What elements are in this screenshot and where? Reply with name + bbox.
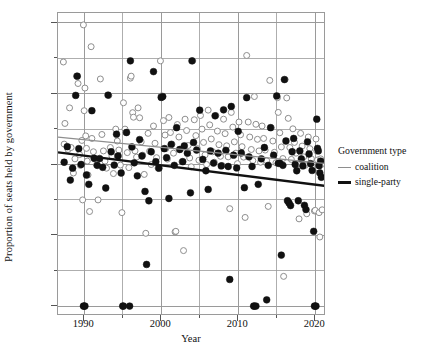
y-tick-mark-minor <box>54 128 57 129</box>
data-point <box>245 119 251 125</box>
data-point <box>190 139 197 146</box>
plot-canvas <box>58 13 325 315</box>
data-point <box>265 203 271 209</box>
data-point <box>128 73 134 79</box>
data-point <box>105 92 112 99</box>
data-point <box>205 186 212 193</box>
data-point <box>201 139 207 145</box>
data-point <box>218 163 225 170</box>
data-point <box>292 161 299 168</box>
data-point <box>313 116 320 123</box>
data-point <box>126 303 133 310</box>
data-point <box>120 100 126 106</box>
data-point <box>253 121 259 127</box>
data-point <box>189 57 196 64</box>
data-point <box>300 163 307 170</box>
data-point <box>181 248 187 254</box>
data-point <box>207 148 214 155</box>
data-point <box>80 22 86 28</box>
data-point <box>139 153 146 160</box>
data-point <box>235 128 242 135</box>
data-point <box>304 138 311 145</box>
data-point <box>261 144 268 151</box>
data-point <box>313 136 319 142</box>
data-point <box>95 197 101 203</box>
data-point <box>88 107 95 114</box>
data-point <box>267 124 274 131</box>
data-point <box>184 150 191 157</box>
data-point <box>247 134 253 140</box>
data-point <box>277 130 283 136</box>
data-point <box>270 152 277 159</box>
data-point <box>248 146 254 152</box>
data-point <box>254 136 260 142</box>
data-point <box>173 228 179 234</box>
y-tick-mark-minor <box>54 270 57 271</box>
data-point <box>242 214 248 220</box>
data-point <box>137 115 143 121</box>
x-axis-title: Year <box>57 333 325 344</box>
data-point <box>167 130 173 136</box>
data-point <box>278 252 285 259</box>
data-point <box>226 276 233 283</box>
data-point <box>265 162 272 169</box>
data-point <box>115 153 122 160</box>
data-point <box>310 228 317 235</box>
data-point <box>163 154 170 161</box>
data-point <box>97 76 103 82</box>
y-tick-mark-minor <box>54 57 57 58</box>
data-point <box>75 145 82 152</box>
data-point <box>176 134 182 140</box>
data-point <box>231 139 237 145</box>
data-point <box>67 177 74 184</box>
data-point <box>85 181 92 188</box>
data-point <box>145 197 152 204</box>
data-point <box>313 303 320 310</box>
legend-line-single-party-icon <box>338 181 351 183</box>
data-point <box>191 117 197 123</box>
data-point <box>184 128 190 134</box>
data-point <box>270 138 276 144</box>
data-point <box>221 116 227 122</box>
data-point <box>241 184 248 191</box>
data-point <box>143 230 149 236</box>
data-point <box>74 73 81 80</box>
data-point <box>281 273 287 279</box>
data-point <box>179 158 186 165</box>
legend-item-single-party[interactable]: single-party <box>338 176 424 189</box>
x-tick-label: 2000 <box>138 318 182 329</box>
data-point <box>230 124 236 130</box>
data-point <box>298 130 304 136</box>
data-point <box>216 142 222 148</box>
x-tick-label: 1990 <box>61 318 105 329</box>
data-point <box>148 148 155 155</box>
data-point <box>166 195 173 202</box>
data-point <box>261 135 267 141</box>
data-point <box>199 126 205 132</box>
data-point <box>113 131 120 138</box>
data-point <box>72 92 79 99</box>
data-point <box>220 106 227 113</box>
data-point <box>150 123 156 129</box>
data-point <box>130 114 136 120</box>
data-point <box>81 108 87 114</box>
y-tick-mark-minor <box>54 199 57 200</box>
data-point <box>110 171 116 177</box>
data-point <box>283 138 290 145</box>
data-point <box>212 112 219 119</box>
data-point <box>290 126 296 132</box>
data-point <box>157 58 163 64</box>
data-point <box>83 133 89 139</box>
data-point <box>236 119 242 125</box>
data-point <box>296 148 303 155</box>
legend-item-coalition[interactable]: coalition <box>338 161 424 174</box>
data-point <box>208 136 214 142</box>
data-point <box>116 147 122 153</box>
data-point <box>80 197 86 203</box>
legend-line-coalition-icon <box>338 167 351 168</box>
data-point <box>303 206 310 213</box>
data-point <box>117 162 123 168</box>
data-point <box>83 172 90 179</box>
y-tick-mark <box>51 305 57 306</box>
plot-area <box>57 12 325 315</box>
